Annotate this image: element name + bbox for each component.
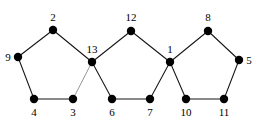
- graph-node-9[interactable]: [14, 53, 22, 61]
- graph-node-label-8: 8: [205, 11, 211, 23]
- edges-layer: [18, 30, 239, 99]
- graph-node-label-13: 13: [87, 43, 99, 55]
- graph-node-label-9: 9: [5, 51, 11, 63]
- graph-node-label-5: 5: [246, 54, 252, 66]
- graph-node-4[interactable]: [30, 95, 38, 103]
- graph-edge-9-4: [18, 57, 34, 99]
- graph-node-11[interactable]: [220, 95, 228, 103]
- graph-diagram-figure: 29431312671851011: [0, 0, 256, 123]
- nodes-layer: [14, 26, 243, 103]
- graph-edge-13-6: [92, 62, 112, 99]
- graph-node-3[interactable]: [69, 95, 77, 103]
- graph-edge-1-8: [170, 31, 208, 62]
- graph-edge-5-11: [224, 60, 239, 99]
- graph-edge-1-10: [170, 62, 186, 99]
- graph-node-13[interactable]: [88, 58, 96, 66]
- graph-node-2[interactable]: [49, 26, 57, 34]
- graph-edge-3-13: [73, 62, 92, 99]
- graph-node-8[interactable]: [204, 27, 212, 35]
- graph-node-label-3: 3: [70, 106, 76, 118]
- graph-edge-12-1: [131, 31, 170, 62]
- graph-node-6[interactable]: [108, 95, 116, 103]
- graph-node-label-4: 4: [31, 106, 37, 118]
- graph-node-label-6: 6: [109, 106, 115, 118]
- graph-node-12[interactable]: [127, 27, 135, 35]
- graph-edge-7-1: [150, 62, 170, 99]
- graph-node-label-12: 12: [126, 11, 137, 23]
- graph-node-1[interactable]: [166, 58, 174, 66]
- graph-node-label-1: 1: [167, 43, 173, 55]
- graph-edge-2-9: [18, 30, 53, 57]
- graph-canvas: 29431312671851011: [0, 0, 256, 123]
- graph-node-label-11: 11: [219, 106, 230, 118]
- labels-layer: 29431312671851011: [5, 11, 252, 118]
- graph-node-label-2: 2: [50, 11, 56, 23]
- graph-node-10[interactable]: [182, 95, 190, 103]
- graph-node-5[interactable]: [235, 56, 243, 64]
- graph-edge-13-12: [92, 31, 131, 62]
- graph-edge-8-5: [208, 31, 239, 60]
- graph-node-7[interactable]: [146, 95, 154, 103]
- graph-node-label-7: 7: [147, 106, 153, 118]
- graph-node-label-10: 10: [181, 106, 193, 118]
